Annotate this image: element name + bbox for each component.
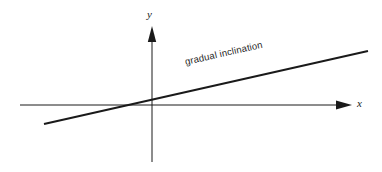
coordinate-plane-svg [0, 0, 382, 172]
y-axis-label: y [147, 9, 152, 20]
x-axis-label: x [357, 98, 362, 109]
line-graph-figure: y x gradual inclination [0, 0, 382, 172]
y-axis-arrowhead-icon [148, 26, 156, 42]
x-axis-arrowhead-icon [336, 101, 352, 110]
